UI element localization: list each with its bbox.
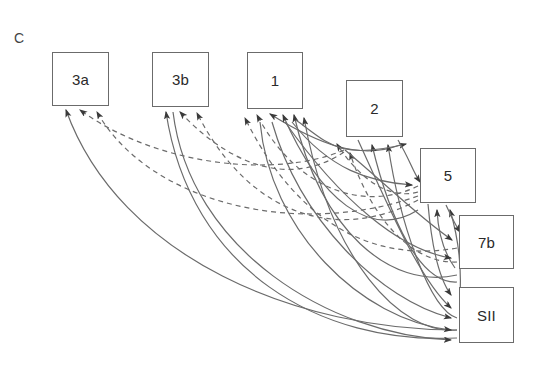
node-label: SII: [477, 307, 496, 324]
edge-2-to-5: [398, 140, 420, 182]
node-label: 1: [271, 72, 280, 89]
node-sii[interactable]: SII: [459, 287, 514, 343]
node-2[interactable]: 2: [346, 80, 403, 137]
edge-5-to-2: [337, 144, 418, 194]
node-1[interactable]: 1: [247, 52, 303, 109]
node-3b[interactable]: 3b: [152, 52, 209, 107]
node-label: 7b: [478, 234, 495, 251]
edge-5-to-7b: [446, 205, 460, 232]
edge-sii-to-3b: [166, 112, 457, 338]
node-5[interactable]: 5: [420, 148, 476, 203]
edge-3b-to-sii: [173, 112, 451, 340]
edge-7b-to-3a: [66, 110, 457, 330]
node-label: 3b: [172, 71, 189, 88]
node-7b[interactable]: 7b: [459, 215, 514, 269]
node-label: 5: [444, 167, 453, 184]
panel-label: C: [14, 30, 24, 46]
node-label: 3a: [72, 71, 89, 88]
figure-canvas: C 3a3b1257bSII: [0, 0, 547, 376]
edge-layer: [66, 110, 460, 340]
node-3a[interactable]: 3a: [52, 52, 109, 106]
node-label: 2: [370, 100, 379, 117]
